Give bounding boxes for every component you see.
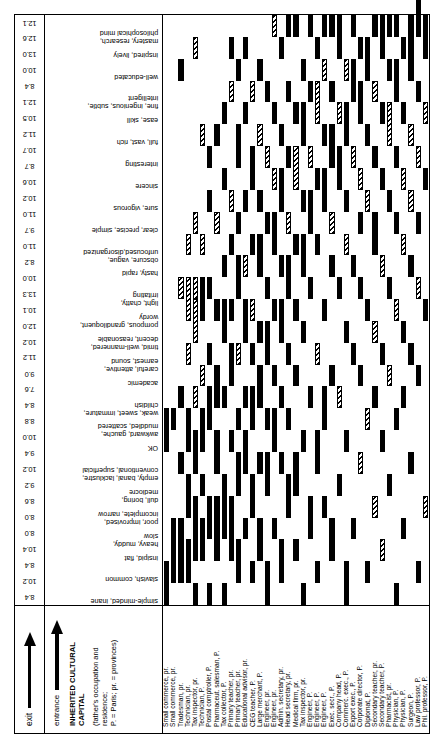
- matrix-cell-solid: [265, 452, 270, 496]
- value-cell: 8.0: [15, 525, 44, 541]
- matrix-cell-solid: [308, 15, 313, 37]
- attribute-label: well-educated: [114, 73, 158, 81]
- value-cell: 8.2: [15, 254, 44, 270]
- matrix-cell-solid: [272, 518, 277, 540]
- attribute-label-line: childish: [83, 401, 158, 409]
- matrix-cell-hatched: [315, 343, 320, 365]
- attribute-header-cell: sincere: [45, 168, 162, 190]
- matrix-row: [415, 15, 422, 605]
- value-cell: 12.1: [15, 95, 44, 111]
- matrix-cell-hatched: [372, 321, 377, 343]
- value-text: 8.8: [25, 418, 35, 425]
- matrix-row: [278, 15, 285, 605]
- matrix-cell-solid: [408, 255, 413, 277]
- attribute-label-line: light, chatty,: [121, 299, 158, 307]
- matrix-cell-solid: [308, 496, 313, 540]
- matrix-cell-solid: [416, 81, 421, 103]
- matrix-row: [206, 15, 213, 605]
- matrix-cell-solid: [315, 234, 320, 256]
- matrix-cell-hatched: [387, 102, 392, 146]
- attribute-label: interesting: [125, 160, 158, 168]
- value-cell: 11.0: [15, 238, 44, 254]
- matrix-cell-solid: [358, 277, 363, 299]
- matrix-cell-hatched: [344, 234, 349, 256]
- attribute-label-line: hasty, rapid: [122, 269, 158, 277]
- attribute-header-row: simple-minded, inaneslavish, commoninsip…: [45, 15, 163, 605]
- matrix-cell-solid: [301, 321, 306, 343]
- matrix-cell-solid: [372, 387, 377, 409]
- value-cell: 10.0: [15, 63, 44, 79]
- value-text: 11.2: [23, 131, 36, 138]
- matrix-cell-solid: [178, 387, 183, 409]
- attribute-header-cell: slavish, common: [45, 561, 162, 583]
- matrix-row: [177, 15, 184, 605]
- matrix-cell-solid: [337, 15, 342, 59]
- matrix-cell-solid: [286, 343, 291, 365]
- matrix-cell-solid: [207, 190, 212, 212]
- exit-cell: exit: [15, 605, 44, 733]
- attribute-label-line: OK: [148, 444, 158, 452]
- matrix-cell-solid: [380, 343, 385, 365]
- matrix-cell-solid: [164, 408, 169, 452]
- exit-label: exit: [25, 713, 34, 726]
- value-cell: 9.7: [15, 222, 44, 238]
- matrix-cell-hatched: [351, 146, 356, 168]
- matrix-cell-solid: [236, 255, 241, 299]
- value-cell: 10.7: [15, 142, 44, 158]
- matrix-cell-solid: [286, 15, 291, 37]
- matrix-cell-solid: [394, 212, 399, 234]
- attribute-label-line: earnest, sound: [104, 357, 158, 365]
- value-text: 9.4: [25, 450, 35, 457]
- matrix-cell-solid: [365, 37, 370, 81]
- value-cell: 10.5: [15, 110, 44, 126]
- attribute-label: light, chatty,irritating: [121, 291, 158, 307]
- matrix-cell-solid: [387, 277, 392, 299]
- matrix-cell-solid: [308, 277, 313, 299]
- matrix-cell-solid: [372, 15, 377, 37]
- matrix-cell-solid: [329, 365, 334, 387]
- attribute-label: awkward, gauche,muddled, scattered: [98, 422, 158, 438]
- matrix-row: [379, 15, 386, 605]
- matrix-cell-solid: [207, 386, 212, 430]
- attribute-label-line: interesting: [125, 160, 158, 168]
- attribute-label-line: conventional, superficial: [82, 466, 158, 474]
- matrix-cell-solid: [401, 321, 406, 343]
- matrix-cell-solid: [394, 146, 399, 168]
- matrix-cell-hatched: [394, 299, 399, 321]
- matrix-cell-solid: [171, 408, 176, 430]
- matrix-row: [343, 15, 350, 605]
- value-text: 9.0: [25, 370, 35, 377]
- matrix-cell-solid: [186, 408, 191, 452]
- matrix-cell-hatched: [401, 234, 406, 256]
- attribute-label-line: heavy, muddy,: [113, 540, 158, 548]
- matrix-cell-solid: [322, 15, 327, 37]
- attribute-label: fine, ingenious, subtle,intelligent: [87, 95, 158, 111]
- value-cell: 13.3: [15, 286, 44, 302]
- matrix-cell-solid: [279, 255, 284, 277]
- matrix-row: [393, 15, 400, 605]
- matrix-cell-solid: [279, 387, 284, 409]
- matrix-row: [163, 15, 170, 605]
- legend-box: entrance INHERITED CULTURAL CAPITAL (fat…: [45, 606, 163, 733]
- matrix-cell-solid: [250, 561, 255, 583]
- attribute-label-line: empty, banal, lacklustre,: [82, 474, 158, 482]
- exit-arrow-icon: [25, 630, 35, 708]
- matrix-row: [185, 15, 192, 605]
- value-text: 11.0: [23, 210, 36, 217]
- matrix-cell-solid: [250, 386, 255, 430]
- matrix-cell-solid: [293, 15, 298, 37]
- matrix-cell-solid: [408, 452, 413, 474]
- matrix-cell-solid: [236, 212, 241, 234]
- matrix-cell-solid: [365, 299, 370, 321]
- matrix-cell-solid: [265, 212, 270, 234]
- matrix-row: [350, 15, 357, 605]
- matrix-cell-solid: [286, 255, 291, 299]
- matrix-cell-solid: [358, 37, 363, 59]
- matrix-cell-solid: [380, 102, 385, 124]
- value-text: 10.5: [23, 115, 37, 122]
- data-matrix: [163, 15, 429, 605]
- attribute-label: full, vast, rich: [117, 138, 158, 146]
- matrix-cell-hatched: [372, 496, 377, 518]
- value-text: 10.2: [23, 195, 37, 202]
- matrix-cell-solid: [229, 37, 234, 59]
